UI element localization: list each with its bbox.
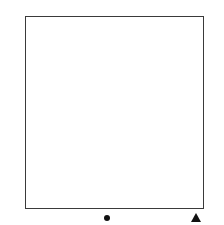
dot-marker-icon <box>104 215 110 221</box>
triangle-marker-icon <box>191 213 201 222</box>
knitting-chart-grid <box>25 16 204 209</box>
